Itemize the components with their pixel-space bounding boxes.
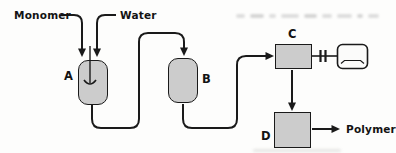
monomer-feed-label: Monomer (14, 10, 71, 21)
piping-layer (0, 0, 396, 153)
into-c-arrowhead (266, 52, 275, 60)
polymer-output-label: Polymer (346, 124, 396, 135)
water-feed-label: Water (120, 10, 157, 21)
polymer-arrowhead (332, 125, 341, 133)
unit-c-label: C (288, 29, 297, 41)
unit-a-label: A (64, 71, 73, 83)
into-d-arrowhead (288, 103, 296, 112)
motor-body (338, 45, 368, 69)
water-feed-pipe (97, 15, 116, 49)
motor-assembly (312, 45, 368, 69)
monomer-arrowhead (78, 49, 86, 58)
unit-d-label: D (261, 131, 271, 143)
unit-b-label: B (202, 74, 211, 86)
water-arrowhead (93, 49, 101, 58)
pipe-a-to-b (92, 33, 184, 128)
into-b-arrowhead (180, 48, 188, 57)
process-flow-diagram: Monomer Water A B C D Polymer (0, 0, 396, 153)
pipe-b-to-c (183, 56, 266, 128)
